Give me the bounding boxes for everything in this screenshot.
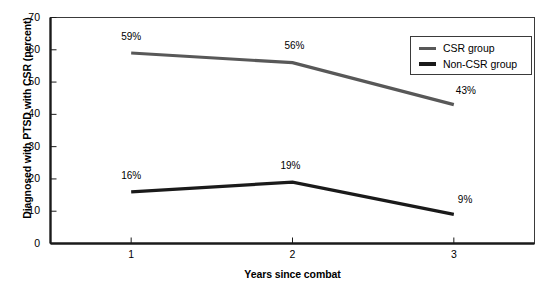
data-label: 43% xyxy=(456,85,476,96)
series-line-non-csr-group xyxy=(131,182,454,214)
x-axis-tick-label: 3 xyxy=(442,249,466,260)
y-axis-tick-label: 20 xyxy=(14,173,40,184)
y-axis-tick-label: 30 xyxy=(14,141,40,152)
legend-item-non-csr-group: Non-CSR group xyxy=(419,56,517,72)
y-axis-tick-label: 50 xyxy=(14,76,40,87)
data-label: 59% xyxy=(121,31,141,42)
x-axis-tick-label: 2 xyxy=(281,249,305,260)
y-axis-tick-label: 60 xyxy=(14,44,40,55)
data-label: 16% xyxy=(121,170,141,181)
legend-item-csr-group: CSR group xyxy=(419,40,495,56)
y-axis-tick-label: 0 xyxy=(14,238,40,249)
legend-swatch-csr-group xyxy=(419,47,436,50)
data-label: 56% xyxy=(285,40,305,51)
series-line-csr-group xyxy=(131,53,454,105)
legend-label-csr-group: CSR group xyxy=(443,42,495,54)
y-axis-tick-label: 40 xyxy=(14,108,40,119)
legend-label-non-csr-group: Non-CSR group xyxy=(443,58,517,70)
x-axis-tick-label: 1 xyxy=(119,249,143,260)
y-axis-tick-label: 10 xyxy=(14,205,40,216)
chart-container: Diagnosed with PTSD with CSR (percent) Y… xyxy=(0,0,546,295)
legend: CSR group Non-CSR group xyxy=(410,36,532,75)
data-label: 19% xyxy=(281,160,301,171)
y-axis-tick-label: 70 xyxy=(14,12,40,23)
legend-swatch-non-csr-group xyxy=(419,62,436,66)
data-label: 9% xyxy=(458,194,472,205)
